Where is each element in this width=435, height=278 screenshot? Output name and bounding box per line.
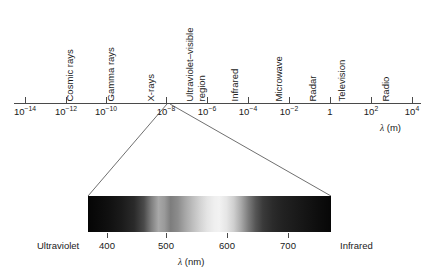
callout-expansion-lines	[0, 0, 435, 278]
em-axis-tick-label: 10−8	[157, 106, 175, 117]
em-axis-tick-label: 102	[364, 106, 378, 117]
region-label-text-line2: region	[197, 75, 208, 101]
em-axis-tick	[330, 97, 331, 103]
em-axis-tick	[412, 97, 413, 103]
em-axis-tick-label: 1	[327, 106, 332, 117]
region-label-text: Radio	[381, 76, 392, 101]
nm-axis-tick-label: 500	[158, 240, 174, 251]
region-label-text: Cosmic rays	[65, 49, 76, 101]
em-axis-tick	[248, 97, 249, 103]
em-axis-tick	[66, 97, 67, 103]
em-axis-tick-label: 10−14	[14, 106, 36, 117]
em-axis-tick	[106, 97, 107, 103]
em-axis-tick-label: 104	[405, 106, 419, 117]
electromagnetic-spectrum-figure: Cosmic rays Gamma rays X-rays Ultraviole…	[0, 0, 435, 278]
nm-axis-tick-label: 700	[280, 240, 296, 251]
band-endcap-label-ultraviolet: Ultraviolet	[37, 240, 79, 251]
nm-axis-tick	[107, 233, 108, 238]
em-axis-tick	[371, 97, 372, 103]
em-axis-tick-label: 10−4	[239, 106, 257, 117]
region-label-text: Microwave	[274, 56, 285, 101]
region-label-text: Infrared	[230, 68, 241, 101]
nm-axis-tick-label: 400	[99, 240, 115, 251]
visible-spectrum-band	[88, 196, 331, 232]
em-axis-tick	[289, 97, 290, 103]
nm-axis-tick	[166, 233, 167, 238]
em-axis-tick-label: 10−6	[198, 106, 216, 117]
nm-axis-tick-label: 600	[219, 240, 235, 251]
region-label-text: Television	[337, 59, 348, 101]
band-endcap-label-infrared: Infrared	[340, 240, 373, 251]
em-axis-tick	[207, 97, 208, 103]
nm-axis-tick	[227, 233, 228, 238]
callout-line-right	[170, 104, 331, 196]
em-axis-tick	[166, 97, 167, 103]
region-label-text: X-rays	[146, 74, 157, 101]
callout-line-left	[88, 104, 167, 196]
em-axis-label: λ (m)	[380, 122, 401, 133]
nm-axis-label: λ (nm)	[178, 256, 204, 267]
region-label-text: Gamma rays	[106, 47, 117, 101]
region-label-text-line1: Ultraviolet–visible	[185, 27, 196, 101]
region-label-text: Radar	[308, 75, 319, 101]
em-axis-tick-label: 10−10	[95, 106, 117, 117]
em-axis-tick-label: 10−2	[280, 106, 298, 117]
em-axis-tick-label: 10−12	[55, 106, 77, 117]
em-axis-line	[14, 103, 421, 104]
em-axis-tick	[25, 97, 26, 103]
nm-axis-tick	[288, 233, 289, 238]
